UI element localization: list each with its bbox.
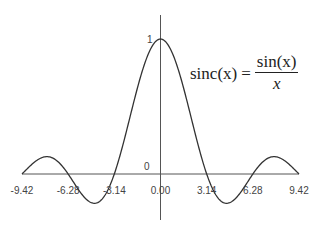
x-tick-label: -3.14 — [103, 185, 126, 196]
y-tick-zero: 0 — [144, 161, 150, 172]
x-tick-label: 0.00 — [151, 185, 171, 196]
y-tick-one: 1 — [147, 34, 153, 45]
formula-numerator: sin(x) — [255, 52, 299, 73]
formula-equals: = — [241, 64, 251, 84]
formula-fraction: sin(x) x — [255, 52, 299, 95]
x-tick-label: -6.28 — [57, 185, 80, 196]
x-tick-label: 9.42 — [289, 185, 309, 196]
x-tick-label: 3.14 — [197, 185, 217, 196]
formula-label: sinc(x) = sin(x) x — [190, 52, 298, 95]
chart-plot: -9.42-6.28-3.140.003.146.289.42 0 1 — [0, 0, 313, 232]
x-tick-labels: -9.42-6.28-3.140.003.146.289.42 — [11, 185, 310, 196]
formula-denominator: x — [273, 73, 281, 95]
x-tick-label: 6.28 — [243, 185, 263, 196]
formula-lhs: sinc(x) — [190, 64, 237, 84]
x-tick-label: -9.42 — [11, 185, 34, 196]
